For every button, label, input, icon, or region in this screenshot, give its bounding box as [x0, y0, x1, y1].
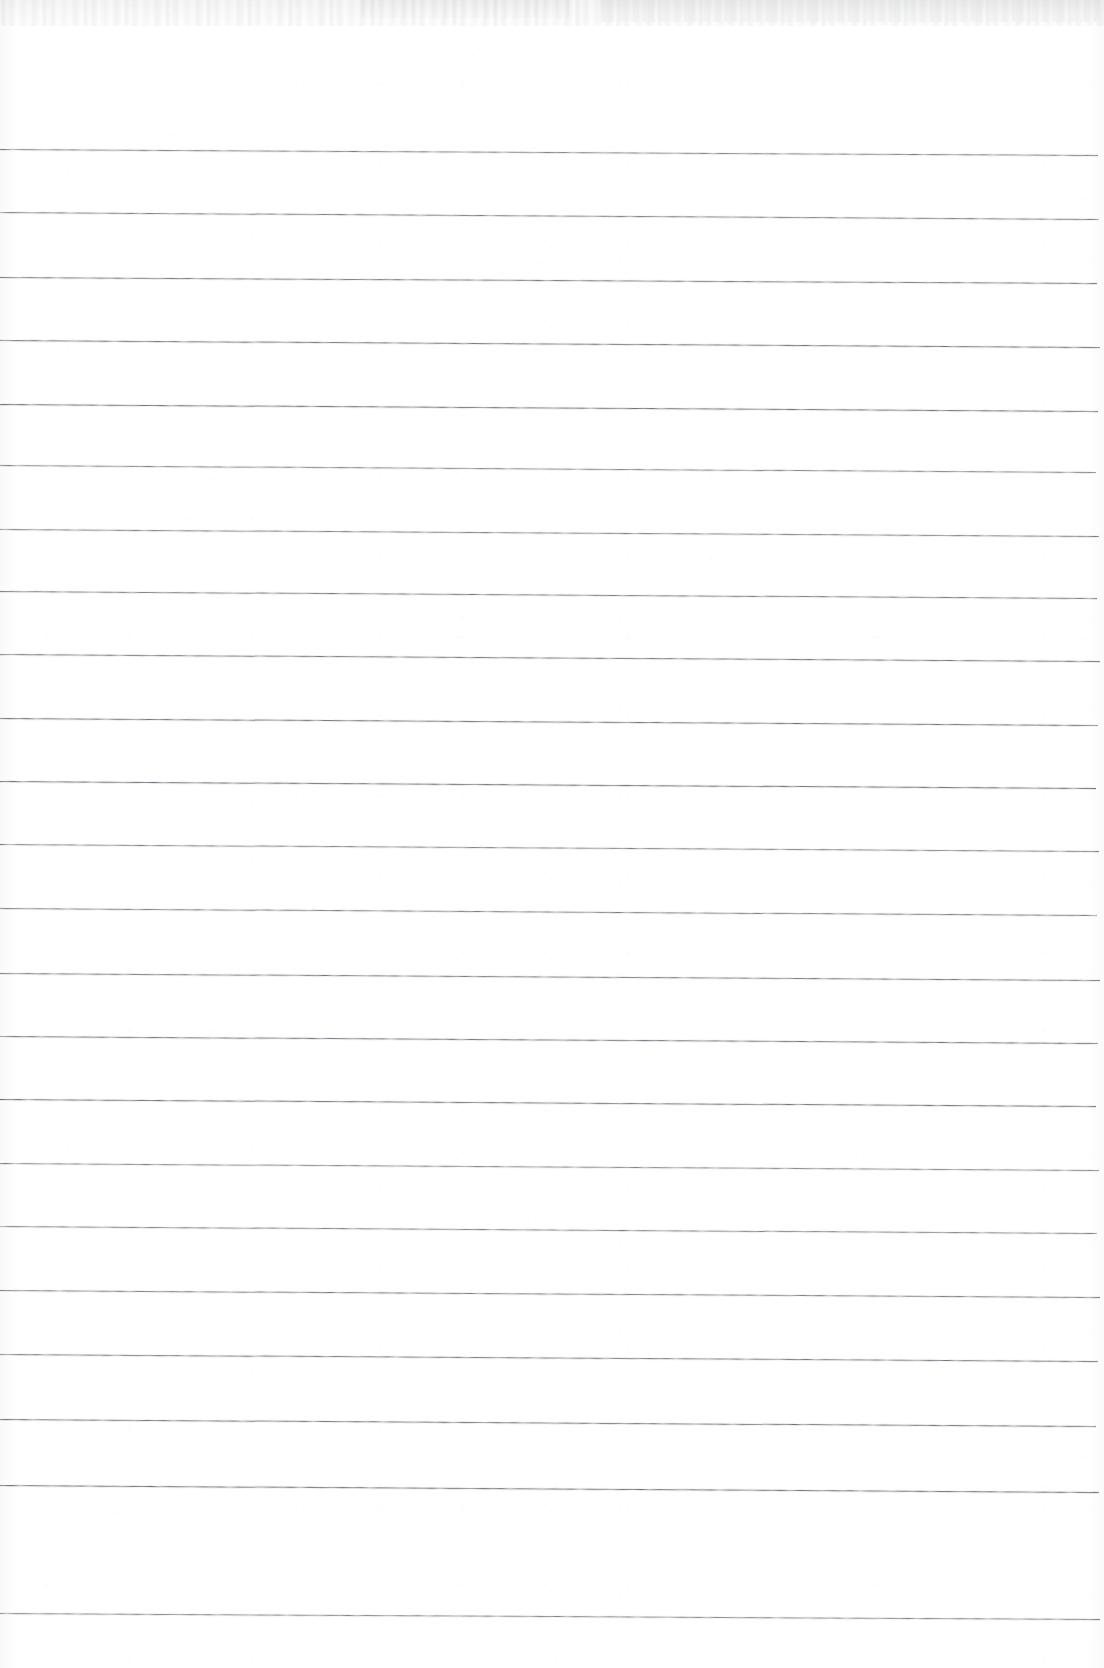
paper-background	[0, 0, 1104, 1668]
scanned-page	[0, 0, 1104, 1668]
